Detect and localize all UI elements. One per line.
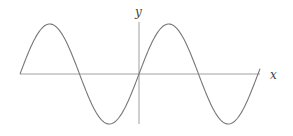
x-axis-label: x [270,68,277,82]
y-axis-label: y [134,5,142,19]
sine-chart: x y [0,0,293,136]
